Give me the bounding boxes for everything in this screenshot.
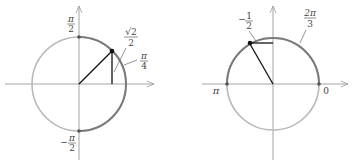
label-sqrt2-over-2: √2 2 [124, 27, 138, 48]
svg-text:2: 2 [128, 38, 134, 48]
point-pi [225, 82, 229, 86]
label-pi: π [212, 85, 220, 96]
svg-text:2: 2 [246, 21, 252, 31]
radius-segment [250, 44, 273, 84]
svg-text:−: − [238, 14, 246, 24]
label-neg-one-half: − 1 2 [238, 11, 253, 31]
diagram-canvas: π 2 − π 2 √2 2 π 4 [0, 0, 352, 168]
label-zero: 0 [323, 86, 329, 96]
svg-text:1: 1 [246, 11, 252, 21]
label-pi-over-4: π 4 [140, 51, 148, 71]
label-2pi-over-3: 2π 3 [303, 8, 317, 29]
svg-text:4: 4 [141, 61, 147, 71]
right-unit-circle-diagram: − 1 2 2π 3 π 0 [202, 6, 348, 160]
svg-text:2π: 2π [303, 8, 317, 18]
svg-text:2: 2 [69, 143, 75, 153]
svg-text:π: π [140, 51, 148, 61]
svg-text:3: 3 [307, 19, 313, 29]
label-neg-pi-over-2: − π 2 [60, 133, 76, 153]
svg-text:2: 2 [68, 24, 74, 34]
point-bottom [77, 129, 81, 133]
point-top [77, 35, 81, 39]
svg-text:−: − [60, 137, 68, 147]
svg-text:π: π [68, 133, 76, 143]
left-unit-circle-diagram: π 2 − π 2 √2 2 π 4 [5, 6, 154, 160]
point-zero [317, 82, 321, 86]
svg-text:√2: √2 [125, 27, 136, 37]
point-2pi-over-3 [248, 41, 253, 46]
svg-text:π: π [67, 14, 75, 24]
radius-segment [79, 51, 112, 84]
leader-angle [300, 30, 306, 43]
leader-angle [124, 60, 137, 65]
leader-cos [249, 31, 256, 41]
point-pi-over-4 [110, 49, 115, 54]
label-pi-over-2: π 2 [67, 14, 75, 34]
